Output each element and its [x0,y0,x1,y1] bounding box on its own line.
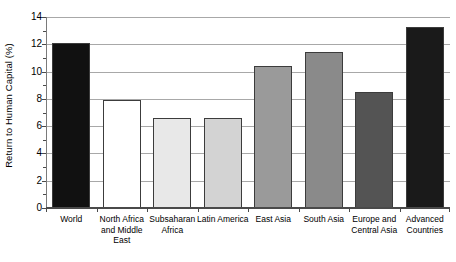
x-tick-mark [198,208,199,212]
bar [406,27,444,208]
x-axis-label-line: Central Asia [346,225,403,236]
y-tick-label: 12 [2,39,42,49]
x-axis-label-line: East Asia [245,214,302,225]
bar-chart: Return to Human Capital (%) 02468101214 … [0,0,456,262]
y-tick-label: 14 [2,12,42,22]
x-axis-label: North Africaand MiddleEast [94,214,151,246]
y-tick-label: 2 [2,176,42,186]
y-tick-label: 6 [2,121,42,131]
x-axis-label-line: Advanced [397,214,454,225]
bar [204,118,242,208]
y-tick-label: 0 [2,203,42,213]
x-tick-mark [400,208,401,212]
x-tick-mark [349,208,350,212]
x-tick-mark [299,208,300,212]
x-axis-label-line: Latin America [195,214,252,225]
y-axis-tick-labels: 02468101214 [0,17,42,208]
x-tick-mark [449,208,450,212]
x-axis-labels: WorldNorth Africaand MiddleEastSubsahara… [46,214,450,258]
bar [52,43,90,208]
x-axis-label: South Asia [296,214,353,225]
x-axis-label: East Asia [245,214,302,225]
x-axis-label-line: East [94,235,151,246]
y-tick-label: 8 [2,94,42,104]
x-axis-label-line: Europe and [346,214,403,225]
x-axis-ticks [46,208,450,212]
x-axis-label: World [43,214,100,225]
bar [355,92,393,208]
x-axis-label-line: Countries [397,225,454,236]
bar [153,118,191,208]
bar [103,100,141,208]
x-axis-label: Latin America [195,214,252,225]
x-tick-mark [248,208,249,212]
x-axis-label-line: Africa [144,225,201,236]
x-tick-mark [97,208,98,212]
x-axis-label: AdvancedCountries [397,214,454,235]
x-axis-label-line: and Middle [94,225,151,236]
x-axis-label: SubsaharanAfrica [144,214,201,235]
y-tick-label: 10 [2,67,42,77]
bars-layer [46,17,450,208]
bar [305,52,343,208]
x-axis-label: Europe andCentral Asia [346,214,403,235]
x-axis-label-line: Subsaharan [144,214,201,225]
plot-area [46,17,450,208]
y-tick-label: 4 [2,148,42,158]
x-axis-label-line: North Africa [94,214,151,225]
bar [254,66,292,208]
x-axis-label-line: South Asia [296,214,353,225]
x-tick-mark [147,208,148,212]
x-axis-label-line: World [43,214,100,225]
x-tick-mark [46,208,47,212]
